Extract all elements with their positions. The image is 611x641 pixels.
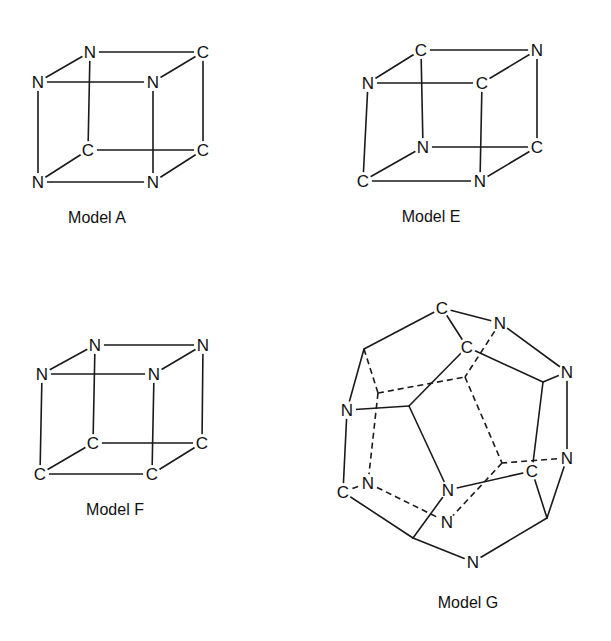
nitrogen-atom: N	[197, 336, 209, 355]
bond	[38, 52, 90, 82]
carbon-atom: C	[82, 141, 94, 160]
bond	[421, 50, 423, 147]
bond	[500, 323, 567, 372]
bond	[409, 347, 467, 406]
bond	[88, 52, 90, 150]
bond	[202, 345, 203, 443]
nitrogen-atom: N	[362, 474, 374, 493]
carbon-atom: C	[337, 483, 349, 502]
nitrogen-atom: N	[32, 73, 44, 92]
nitrogen-atom: N	[561, 449, 573, 468]
hidden-bond	[465, 377, 502, 463]
nitrogen-atom: N	[341, 401, 353, 420]
carbon-atom: C	[415, 41, 427, 60]
bond	[467, 347, 543, 382]
nitrogen-atom: N	[474, 172, 486, 191]
nitrogen-atom: N	[467, 553, 479, 572]
bond	[368, 50, 421, 83]
hidden-bond	[364, 349, 378, 393]
carbon-atom: C	[197, 43, 209, 62]
bond	[480, 147, 537, 181]
bond	[482, 50, 537, 83]
model-e-structure: CNNCNCCN	[354, 41, 546, 191]
bond	[448, 471, 532, 490]
model-g-structure: CNCNNCNCNNNN	[334, 299, 576, 572]
hidden-bond	[368, 393, 378, 483]
nitrogen-atom: N	[147, 173, 159, 192]
bond	[364, 308, 442, 349]
carbon-atom: C	[476, 74, 488, 93]
carbon-atom: C	[197, 141, 209, 160]
bond	[93, 345, 95, 443]
nitrogen-atom: N	[147, 73, 159, 92]
nitrogen-atom: N	[531, 41, 543, 60]
nitrogen-atom: N	[442, 481, 454, 500]
model-a-label: Model A	[68, 209, 126, 227]
bond	[152, 374, 154, 474]
bond	[347, 406, 409, 410]
carbon-atom: C	[531, 138, 543, 157]
bond	[343, 492, 413, 538]
bond	[409, 406, 448, 490]
model-a-structure: NCCCNNNN	[29, 43, 212, 192]
molecular-models-diagram: NCCCNNNN CNNCNCCN NNCCNNCC CNCNNCNCNNNN	[0, 0, 611, 641]
model-f-label: Model F	[86, 501, 144, 519]
carbon-atom: C	[87, 434, 99, 453]
nitrogen-atom: N	[148, 365, 160, 384]
bond	[363, 83, 368, 181]
nitrogen-atom: N	[84, 43, 96, 62]
carbon-atom: C	[357, 172, 369, 191]
carbon-atom: C	[436, 299, 448, 318]
model-g-label: Model G	[438, 594, 498, 612]
carbon-atom: C	[196, 434, 208, 453]
nitrogen-atom: N	[89, 336, 101, 355]
bond	[40, 443, 93, 474]
model-e-label: Model E	[402, 208, 461, 226]
bond	[413, 538, 473, 562]
bond	[532, 382, 543, 471]
bond	[40, 374, 42, 474]
nitrogen-atom: N	[494, 314, 506, 333]
carbon-atom: C	[526, 462, 538, 481]
bond	[473, 518, 547, 562]
nitrogen-atom: N	[32, 173, 44, 192]
bond	[363, 147, 423, 181]
hidden-bond	[378, 377, 465, 393]
model-f-structure: NNCCNNCC	[31, 336, 212, 484]
carbon-atom: C	[34, 465, 46, 484]
carbon-atom: C	[146, 465, 158, 484]
bond	[42, 345, 95, 374]
bond	[480, 83, 482, 181]
nitrogen-atom: N	[561, 363, 573, 382]
nitrogen-atom: N	[441, 513, 453, 532]
bond	[343, 410, 347, 492]
nitrogen-atom: N	[362, 74, 374, 93]
nitrogen-atom: N	[36, 365, 48, 384]
nitrogen-atom: N	[417, 138, 429, 157]
carbon-atom: C	[461, 338, 473, 357]
